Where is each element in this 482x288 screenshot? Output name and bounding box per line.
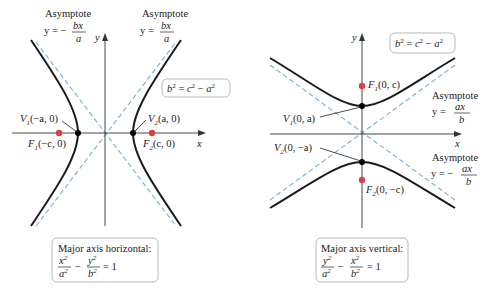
left-panel-horizontal-hyperbola: Asymptote y = − bx a Asymptote y = bx a …: [12, 8, 230, 282]
left-x-axis-arrow: [198, 130, 206, 136]
left-asymptote-neg-den: a: [76, 33, 81, 44]
right-asymptote-neg-title: Asymptote: [432, 152, 478, 163]
left-v1-label: V1(−a, 0): [20, 113, 59, 127]
right-asymptote-neg-num: ax: [462, 163, 472, 174]
left-caption-rhs: = 1: [103, 261, 117, 272]
left-y-axis-arrow: [102, 33, 108, 41]
right-vertex-v2: [359, 159, 365, 165]
right-vertex-v1: [359, 103, 365, 109]
right-asymptote-pos-num: ax: [455, 101, 465, 112]
right-asymptote-pos-title: Asymptote: [432, 90, 478, 101]
left-v2-label: V2(a, 0): [148, 113, 181, 127]
right-v2-label: V2(0, −a): [274, 142, 313, 156]
left-caption-minus: −: [75, 261, 81, 272]
left-f2-label: F2(c, 0): [142, 138, 176, 152]
right-focus-f2: [359, 177, 365, 183]
left-focus-f1: [56, 130, 62, 136]
left-asymptote-neg-lhs: y = −: [44, 25, 66, 36]
left-asymptote-pos-title: Asymptote: [142, 8, 188, 19]
left-x-axis-label: x: [196, 138, 202, 149]
right-caption-title: Major axis vertical:: [321, 243, 403, 254]
left-v1-leader: [62, 121, 77, 132]
right-focus-f1: [359, 83, 365, 89]
left-focus-f2: [149, 130, 155, 136]
left-caption-title: Major axis horizontal:: [58, 243, 151, 254]
right-v1-leader: [320, 107, 361, 117]
left-asymptote-neg-num: bx: [73, 20, 83, 31]
right-asymptote-pos-den: b: [459, 114, 464, 125]
left-asymptote-pos-num: bx: [161, 20, 171, 31]
left-y-axis-label: y: [94, 32, 100, 43]
hyperbola-diagram: Asymptote y = − bx a Asymptote y = bx a …: [0, 0, 482, 288]
left-asymptote-neg-title: Asymptote: [45, 8, 91, 19]
right-hyperbola-lower-branch: [270, 162, 455, 208]
right-asymptote-pos-lhs: y =: [432, 106, 446, 117]
right-asymptote-neg-lhs: y = −: [431, 168, 453, 179]
right-panel-vertical-hyperbola: y x b2 = c2 − a2 F1(0, c) V1(0, a) V2(0,…: [270, 32, 478, 282]
right-x-axis-arrow: [454, 131, 462, 137]
right-hyperbola-upper-branch: [270, 58, 455, 106]
right-caption-rhs: = 1: [367, 261, 381, 272]
right-v2-leader: [320, 148, 361, 161]
right-f2-label: F2(0, −c): [365, 184, 405, 198]
right-y-axis-label: y: [351, 32, 357, 43]
right-x-axis-label: x: [454, 138, 460, 149]
left-v2-leader: [134, 120, 146, 132]
right-y-axis-arrow: [359, 33, 365, 41]
right-caption-minus: −: [338, 261, 344, 272]
left-asymptote-pos-den: a: [164, 33, 169, 44]
right-asymptote-neg-den: b: [466, 176, 471, 187]
right-f1-label: F1(0, c): [367, 79, 401, 93]
right-v1-label: V1(0, a): [283, 113, 316, 127]
left-asymptote-pos-lhs: y =: [140, 25, 154, 36]
left-f1-label: F1(−c, 0): [27, 138, 67, 152]
